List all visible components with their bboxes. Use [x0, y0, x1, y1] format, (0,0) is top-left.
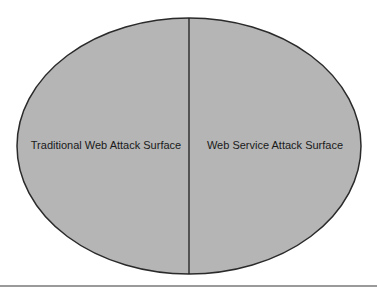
horizontal-rule — [0, 285, 377, 287]
traditional-web-attack-surface-label: Traditional Web Attack Surface — [31, 139, 181, 151]
attack-surface-diagram: Traditional Web Attack Surface Web Servi… — [0, 0, 377, 293]
web-service-attack-surface-label: Web Service Attack Surface — [207, 139, 343, 151]
